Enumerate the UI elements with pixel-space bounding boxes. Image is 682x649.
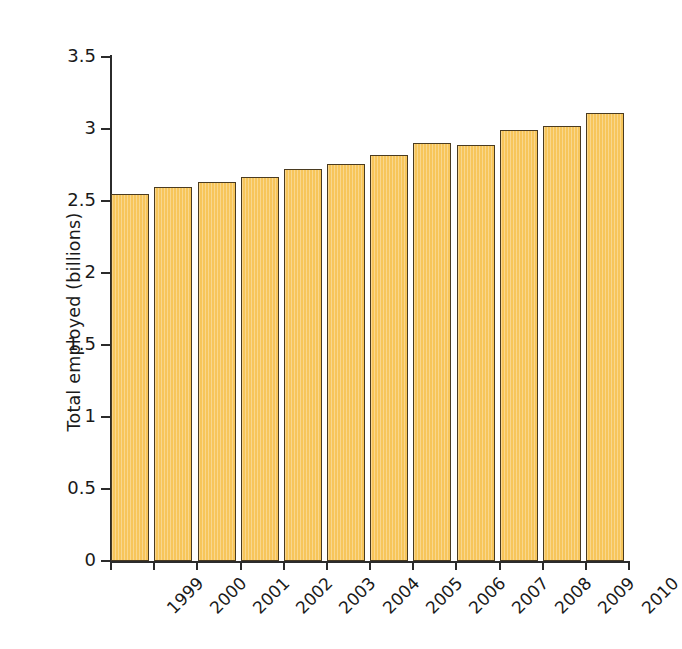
bar	[198, 182, 236, 561]
y-axis-tick-mark	[101, 488, 110, 490]
x-axis-tick-mark	[369, 561, 371, 570]
bar	[154, 187, 192, 561]
x-axis-tick-mark	[240, 561, 242, 570]
bar	[500, 130, 538, 561]
x-axis-tick-mark	[326, 561, 328, 570]
x-axis-tick-mark	[283, 561, 285, 570]
bar	[413, 143, 451, 561]
x-axis-tick-mark	[499, 561, 501, 570]
bar	[370, 155, 408, 561]
bar	[586, 113, 624, 561]
y-axis-tick-mark	[101, 272, 110, 274]
x-axis-tick-label: 2008	[551, 573, 596, 618]
y-axis-tick-label: 2	[85, 261, 96, 283]
x-axis-tick-mark	[628, 561, 630, 570]
y-axis-tick-mark	[101, 416, 110, 418]
x-axis-tick-label: 2001	[249, 573, 294, 618]
x-axis-tick-label: 2009	[594, 573, 639, 618]
bars-layer	[110, 57, 628, 561]
bar	[327, 164, 365, 561]
x-axis-tick-mark	[585, 561, 587, 570]
x-axis-tick-label: 2010	[637, 573, 682, 618]
y-axis-tick-mark	[101, 200, 110, 202]
bar	[241, 177, 279, 561]
y-axis-tick-mark	[101, 56, 110, 58]
y-axis-tick-mark	[101, 560, 110, 562]
bar	[457, 145, 495, 561]
x-axis-tick-label: 2007	[508, 573, 553, 618]
x-axis-tick-label: 1999	[162, 573, 207, 618]
x-axis-tick-mark	[196, 561, 198, 570]
y-axis-tick-label: 3	[85, 117, 96, 139]
x-axis-tick-label: 2000	[206, 573, 251, 618]
x-axis-tick-mark	[153, 561, 155, 570]
x-axis-tick-label: 2002	[292, 573, 337, 618]
bar	[284, 169, 322, 561]
bar	[111, 194, 149, 561]
x-axis-tick-label: 2004	[378, 573, 423, 618]
x-axis-tick-mark	[455, 561, 457, 570]
y-axis-tick-label: 1	[85, 405, 96, 427]
y-axis-tick-label: 1.5	[67, 333, 96, 355]
y-axis-tick-mark	[101, 344, 110, 346]
y-axis-tick-label: 0	[85, 549, 96, 571]
y-axis-tick-mark	[101, 128, 110, 130]
x-axis-tick-mark	[110, 561, 112, 570]
x-axis-tick-mark	[542, 561, 544, 570]
x-axis-tick-label: 2003	[335, 573, 380, 618]
y-axis-tick-label: 3.5	[67, 45, 96, 67]
x-axis-tick-label: 2005	[421, 573, 466, 618]
bar	[543, 126, 581, 561]
y-axis-tick-label: 0.5	[67, 477, 96, 499]
y-axis-tick-label: 2.5	[67, 189, 96, 211]
x-axis-tick-mark	[412, 561, 414, 570]
x-axis-tick-label: 2006	[465, 573, 510, 618]
